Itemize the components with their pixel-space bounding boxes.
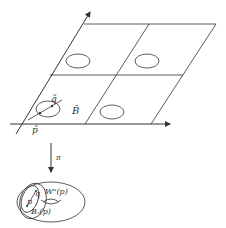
label-B-tilde: B̃ [71,105,79,116]
point-q-tilde [51,105,53,107]
label-pi: π [55,154,61,162]
label-q-tilde: q̃ [51,94,57,104]
label-Bs-p: Bₛ(p) [30,207,51,216]
diagram-canvas: q̃ p̃ B̃ π q p Wᵘ(p) Bₛ(p) [0,0,226,228]
label-Wu-p: Wᵘ(p) [45,187,68,196]
lifted-ellipses [36,54,159,119]
label-p-tilde: p̃ [32,125,38,135]
label-q: q [35,189,40,198]
point-p-tilde [39,112,41,114]
label-p: p [27,197,32,206]
